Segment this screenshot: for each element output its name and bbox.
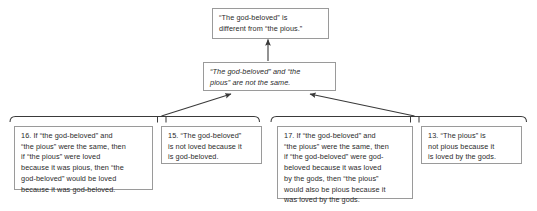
group-left-bracket bbox=[10, 117, 260, 123]
node-conclusion[interactable]: “The god-beloved” is different from “the… bbox=[212, 8, 329, 39]
arrow-left-group-to-intermediate bbox=[162, 94, 232, 116]
node-premise-15[interactable]: 15. “The god-beloved” is not loved becau… bbox=[161, 126, 262, 164]
node-premise-17[interactable]: 17. If “the god-beloved” and “the pious”… bbox=[277, 126, 413, 199]
node-intermediate-conclusion[interactable]: “The god-beloved” and “the pious” are no… bbox=[203, 62, 336, 91]
node-premise-13[interactable]: 13. “The pious” is not pious because it … bbox=[421, 126, 522, 164]
group-right-bracket bbox=[271, 117, 527, 123]
diagram-canvas: “The god-beloved” is different from “the… bbox=[0, 0, 537, 211]
node-premise-16[interactable]: 16. If “the god-beloved” and “the pious”… bbox=[14, 126, 153, 190]
arrow-right-group-to-intermediate bbox=[310, 94, 415, 116]
